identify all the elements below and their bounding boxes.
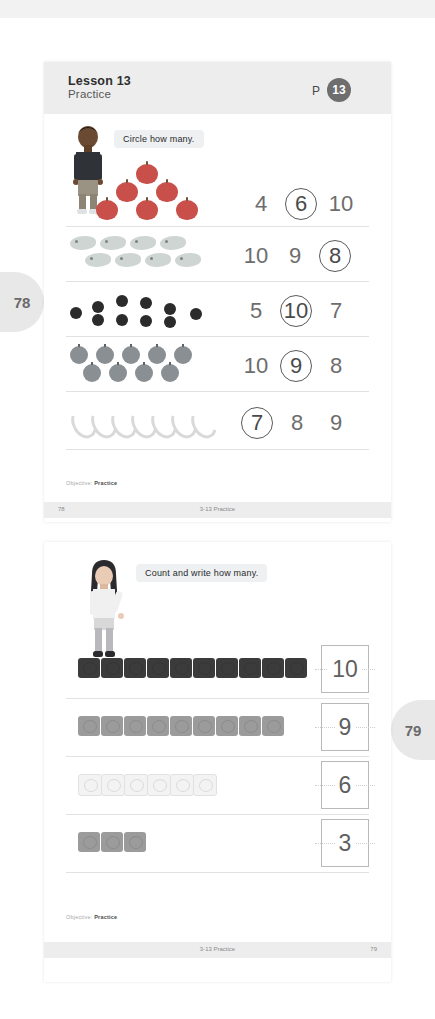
- option-bananas-2[interactable]: 9: [321, 408, 351, 438]
- count-row-light-cubes: 6: [66, 756, 369, 815]
- footer-page-number-78: 78: [58, 506, 65, 512]
- option-fish-1[interactable]: 9: [280, 241, 310, 271]
- exercise-row-fish: 10 9 8: [66, 226, 369, 282]
- berry-icon: [70, 307, 82, 319]
- cube-icon: [124, 774, 148, 796]
- plum-icon: [122, 346, 140, 364]
- plum-icon: [109, 364, 127, 382]
- apple-icon: [136, 200, 158, 220]
- option-berries-0[interactable]: 5: [241, 296, 271, 326]
- cube-icon: [170, 774, 194, 796]
- plum-icon: [70, 346, 88, 364]
- fish-icon: [160, 236, 186, 250]
- option-berries-2[interactable]: 7: [321, 296, 351, 326]
- option-fish-2[interactable]: 8: [319, 240, 351, 272]
- berry-icon: [140, 315, 152, 327]
- cube-icon: [124, 716, 146, 736]
- footer-center-79: 3-13 Practice: [200, 946, 235, 952]
- apple-icon: [156, 182, 178, 202]
- lesson-header-band: Lesson 13 Practice P 13: [44, 62, 391, 114]
- plum-icon: [96, 346, 114, 364]
- count-row-gray-cubes: 9: [66, 698, 369, 757]
- fish-icon: [100, 236, 126, 250]
- option-apples-1[interactable]: 6: [285, 188, 317, 220]
- cube-icon: [78, 774, 102, 796]
- fish-icon: [175, 253, 201, 267]
- answer-options-apples: 4 6 10: [246, 188, 356, 220]
- cube-icon: [78, 832, 100, 852]
- cube-icon: [170, 716, 192, 736]
- cube-icon: [216, 658, 238, 678]
- objective-value: Practice: [94, 914, 117, 920]
- answer-box-light-cubes[interactable]: 6: [321, 761, 369, 809]
- worksheet-viewer: 78 79 Lesson 13 Practice P 13 Cir: [0, 0, 435, 1019]
- objective-line-page-79: Objective: Practice: [66, 914, 117, 920]
- apple-icon: [176, 200, 198, 220]
- option-plums-2[interactable]: 8: [321, 351, 351, 381]
- objective-label: Objective:: [66, 914, 92, 920]
- cube-icon: [101, 832, 123, 852]
- cube-icon: [78, 716, 100, 736]
- option-plums-0[interactable]: 10: [241, 351, 271, 381]
- option-berries-1[interactable]: 10: [280, 295, 312, 327]
- page-tab-79[interactable]: 79: [391, 700, 435, 760]
- cube-icon: [147, 658, 169, 678]
- p-number-badge: 13: [327, 78, 351, 102]
- answer-value-light-cubes: 6: [335, 772, 356, 799]
- cube-icon: [101, 774, 125, 796]
- page-tab-78[interactable]: 78: [0, 272, 44, 332]
- apple-icon: [136, 164, 158, 184]
- page-tab-78-label: 78: [14, 294, 31, 311]
- fish-icon: [70, 236, 96, 250]
- berry-icon: [190, 308, 202, 320]
- apple-icon: [96, 200, 118, 220]
- cube-icon: [170, 658, 192, 678]
- cube-icon: [216, 716, 238, 736]
- exercise-row-bananas: 7 8 9: [66, 391, 369, 450]
- option-bananas-1[interactable]: 8: [282, 408, 312, 438]
- footer-center-78: 3-13 Practice: [200, 506, 235, 512]
- cube-icon: [285, 658, 307, 678]
- cube-icon: [101, 658, 123, 678]
- cube-icon: [193, 716, 215, 736]
- exercise-row-apples: 4 6 10: [66, 148, 369, 227]
- plum-icon: [161, 364, 179, 382]
- objective-line-page-78: Objective: Practice: [66, 480, 117, 486]
- objective-label: Objective:: [66, 480, 92, 486]
- exercise-row-berries: 5 10 7: [66, 281, 369, 337]
- plum-icon: [135, 364, 153, 382]
- answer-box-dark-cubes[interactable]: 10: [321, 645, 369, 693]
- fish-icon: [145, 253, 171, 267]
- cube-icon: [193, 774, 217, 796]
- footer-page-number-79: 79: [370, 946, 377, 952]
- answer-value-small-gray-cubes: 3: [335, 830, 356, 857]
- answer-box-gray-cubes[interactable]: 9: [321, 703, 369, 751]
- top-strip: [0, 0, 435, 18]
- berry-icon: [164, 316, 176, 328]
- option-plums-1[interactable]: 9: [280, 350, 312, 382]
- answer-options-bananas: 7 8 9: [241, 407, 351, 439]
- answer-options-berries: 5 10 7: [241, 295, 351, 327]
- option-fish-0[interactable]: 10: [241, 241, 271, 271]
- plum-icon: [148, 346, 166, 364]
- exercise-row-plums: 10 9 8: [66, 336, 369, 392]
- option-bananas-0[interactable]: 7: [241, 407, 273, 439]
- lesson-title: Lesson 13: [68, 74, 131, 88]
- fish-icon: [115, 253, 141, 267]
- worksheet-page-78: Lesson 13 Practice P 13 Circle how many.: [44, 62, 391, 522]
- answer-box-small-gray-cubes[interactable]: 3: [321, 819, 369, 867]
- berry-icon: [92, 301, 104, 313]
- option-apples-0[interactable]: 4: [246, 189, 276, 219]
- option-apples-2[interactable]: 10: [326, 189, 356, 219]
- fish-icon: [85, 253, 111, 267]
- cube-icon: [124, 832, 146, 852]
- cube-icon: [193, 658, 215, 678]
- answer-value-gray-cubes: 9: [335, 714, 356, 741]
- berry-icon: [116, 295, 128, 307]
- answer-options-plums: 10 9 8: [241, 350, 351, 382]
- instruction-bubble-page-78: Circle how many.: [114, 130, 204, 148]
- berry-icon: [164, 303, 176, 315]
- instruction-bubble-page-79: Count and write how many.: [136, 564, 267, 582]
- objective-value: Practice: [94, 480, 117, 486]
- cube-icon: [101, 716, 123, 736]
